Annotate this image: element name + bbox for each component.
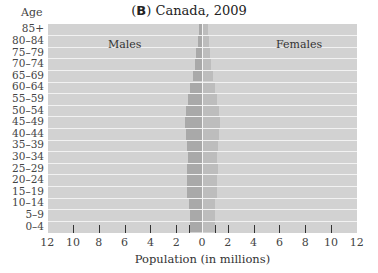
- age-label: 45–49: [0, 116, 44, 127]
- x-tick: [228, 225, 229, 233]
- male-bar: [187, 187, 202, 198]
- x-tick-label: 6: [267, 236, 291, 249]
- x-tick-label: 2: [216, 236, 240, 249]
- x-tick: [150, 225, 151, 233]
- x-minor-tick: [215, 225, 216, 233]
- age-label: 15–19: [0, 186, 44, 197]
- x-axis-title: Population (in millions): [0, 252, 378, 266]
- x-tick: [305, 225, 306, 233]
- age-label: 50–54: [0, 105, 44, 116]
- male-bar: [187, 163, 202, 174]
- x-tick: [99, 225, 100, 233]
- male-bar: [187, 140, 202, 151]
- female-bar: [203, 198, 215, 209]
- x-minor-tick: [189, 225, 190, 233]
- age-label: 85+: [0, 23, 44, 34]
- age-label: 75–79: [0, 47, 44, 58]
- x-tick-label: 6: [113, 236, 137, 249]
- x-tick-label: 12: [345, 236, 369, 249]
- male-bar: [186, 129, 202, 140]
- chart-title: (B) Canada, 2009: [0, 3, 378, 18]
- female-bar: [203, 47, 210, 58]
- age-label: 60–64: [0, 81, 44, 92]
- male-bar: [188, 152, 202, 163]
- x-tick: [73, 225, 74, 233]
- female-bar: [203, 117, 220, 128]
- female-bar: [203, 187, 217, 198]
- x-tick-label: 10: [319, 236, 343, 249]
- female-bar: [203, 82, 215, 93]
- age-label: 10–14: [0, 197, 44, 208]
- female-bar: [203, 210, 215, 221]
- x-tick: [176, 225, 177, 233]
- female-bar: [203, 140, 218, 151]
- females-label: Females: [276, 38, 322, 51]
- female-bar: [203, 221, 215, 232]
- x-tick-label: 8: [87, 236, 111, 249]
- female-bar: [203, 163, 218, 174]
- age-label: 55–59: [0, 93, 44, 104]
- male-bar: [189, 198, 202, 209]
- female-bar: [203, 24, 208, 35]
- female-bar: [203, 70, 213, 81]
- age-label: 70–74: [0, 58, 44, 69]
- male-bar: [188, 94, 202, 105]
- title-prefix: B: [136, 3, 146, 18]
- male-bar: [195, 59, 202, 70]
- female-bar: [203, 59, 211, 70]
- plot-area: [48, 24, 357, 233]
- title-text: Canada, 2009: [155, 3, 246, 18]
- x-tick-label: 2: [164, 236, 188, 249]
- male-bar: [187, 175, 202, 186]
- x-tick-label: 4: [138, 236, 162, 249]
- female-bar: [203, 129, 219, 140]
- x-tick-label: 12: [35, 236, 59, 249]
- x-tick: [279, 225, 280, 233]
- age-label: 65–69: [0, 70, 44, 81]
- male-bar: [190, 210, 202, 221]
- x-tick-label: 10: [61, 236, 85, 249]
- male-bar: [193, 70, 202, 81]
- y-axis-title: Age: [21, 6, 43, 19]
- age-label: 80–84: [0, 35, 44, 46]
- x-tick-label: 0: [190, 236, 214, 249]
- males-label: Males: [108, 38, 142, 51]
- age-label: 30–34: [0, 151, 44, 162]
- female-bar: [203, 152, 217, 163]
- x-tick-label: 8: [293, 236, 317, 249]
- age-label: 0–4: [0, 221, 44, 232]
- female-bar: [203, 175, 217, 186]
- male-bar: [185, 117, 202, 128]
- female-bar: [203, 105, 219, 116]
- male-bar: [190, 82, 202, 93]
- x-tick: [125, 225, 126, 233]
- age-label: 20–24: [0, 174, 44, 185]
- male-bar: [186, 105, 202, 116]
- x-tick: [331, 225, 332, 233]
- x-tick-label: 4: [242, 236, 266, 249]
- center-line: [202, 24, 203, 233]
- female-bar: [203, 94, 217, 105]
- age-label: 35–39: [0, 139, 44, 150]
- age-label: 5–9: [0, 209, 44, 220]
- x-tick: [254, 225, 255, 233]
- age-label: 25–29: [0, 163, 44, 174]
- age-label: 40–44: [0, 128, 44, 139]
- female-bar: [203, 36, 209, 47]
- male-bar: [190, 221, 202, 232]
